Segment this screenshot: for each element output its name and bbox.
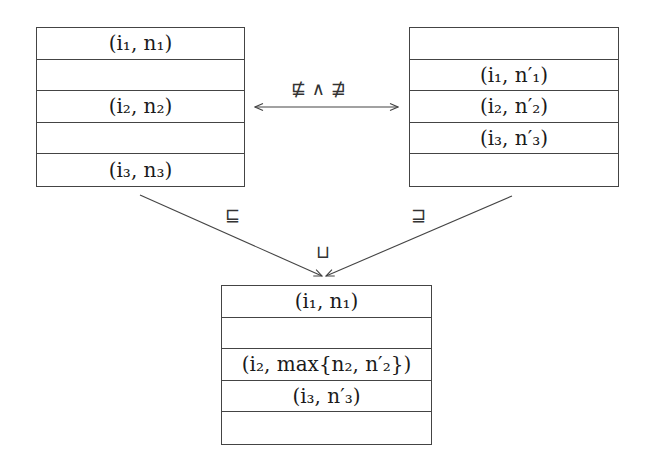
table-row: (i₂, max{n₂, n′₂}) xyxy=(222,349,431,381)
table-row xyxy=(37,60,244,92)
table-row: (i₃, n′₃) xyxy=(222,381,431,413)
table-row: (i₃, n′₃) xyxy=(410,123,618,155)
table-row: (i₂, n₂) xyxy=(37,91,244,123)
table-row: (i₂, n′₂) xyxy=(410,91,618,123)
table-row: (i₁, n₁) xyxy=(222,286,431,318)
table-row xyxy=(410,28,618,60)
right-to-merge-label: ⊒ xyxy=(411,206,426,224)
merged-table: (i₁, n₁) (i₂, max{n₂, n′₂}) (i₃, n′₃) xyxy=(221,285,432,445)
left-table: (i₁, n₁) (i₂, n₂) (i₃, n₃) xyxy=(36,27,245,187)
right-table: (i₁, n′₁) (i₂, n′₂) (i₃, n′₃) xyxy=(409,27,619,187)
table-row: (i₃, n₃) xyxy=(37,154,244,186)
table-row xyxy=(222,318,431,350)
left-to-merge-label: ⊑ xyxy=(225,206,240,224)
table-row: (i₁, n₁) xyxy=(37,28,244,60)
lattice-join-diagram: (i₁, n₁) (i₂, n₂) (i₃, n₃) (i₁, n′₁) (i₂… xyxy=(0,0,648,469)
table-row xyxy=(37,123,244,155)
join-label: ⊔ xyxy=(316,243,330,261)
table-row xyxy=(410,154,618,186)
table-row: (i₁, n′₁) xyxy=(410,60,618,92)
table-row xyxy=(222,412,431,444)
incomparable-label: ⋢ ∧ ⋣ xyxy=(291,80,346,98)
